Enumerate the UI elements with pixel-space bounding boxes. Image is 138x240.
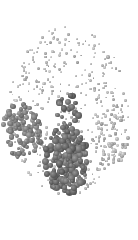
- sphere-dot: [95, 146, 98, 149]
- sphere-dot: [90, 143, 92, 145]
- sphere-dot: [55, 143, 61, 149]
- sphere-dot: [101, 105, 103, 107]
- sphere-dot: [95, 150, 97, 152]
- sphere-dot: [56, 160, 63, 167]
- sphere-dot: [49, 148, 54, 153]
- sphere-dot: [67, 33, 70, 36]
- sphere-dot: [116, 129, 118, 131]
- sphere-dot: [85, 82, 87, 84]
- sphere-dot: [23, 78, 26, 81]
- sphere-dot: [85, 94, 87, 96]
- sphere-dot: [42, 82, 45, 85]
- sphere-dot: [127, 105, 129, 107]
- sphere-dot: [17, 138, 21, 142]
- sphere-dot: [65, 118, 67, 120]
- sphere-dot: [68, 84, 70, 86]
- sphere-dot: [105, 97, 107, 99]
- sphere-dot: [81, 74, 83, 76]
- sphere-dot: [118, 70, 120, 72]
- sphere-dot: [60, 71, 63, 74]
- sphere-dot: [32, 122, 36, 126]
- sphere-dot: [22, 83, 24, 85]
- sphere-dot: [79, 191, 82, 194]
- sphere-dot: [80, 130, 83, 133]
- sphere-dot: [99, 162, 102, 165]
- sphere-dot: [80, 92, 82, 94]
- sphere-dot: [36, 85, 39, 88]
- sphere-dot: [48, 30, 50, 32]
- sphere-dot: [58, 41, 61, 44]
- sphere-dot: [49, 41, 52, 44]
- sphere-dot: [88, 44, 90, 46]
- sphere-dot: [22, 120, 26, 124]
- sphere-dot: [92, 140, 95, 143]
- sphere-dot: [27, 106, 32, 111]
- sphere-dot: [80, 108, 82, 110]
- sphere-dot: [33, 61, 35, 63]
- sphere-dot: [81, 165, 86, 170]
- sphere-dot: [112, 95, 114, 97]
- sphere-dot: [123, 119, 125, 121]
- sphere-dot: [87, 168, 90, 171]
- sphere-dot: [48, 70, 51, 73]
- sphere-dot: [66, 148, 72, 154]
- sphere-dot: [68, 112, 70, 114]
- sphere-dot: [44, 52, 47, 55]
- sphere-dot: [121, 111, 123, 113]
- sphere-dot: [63, 65, 65, 67]
- sphere-dot: [44, 137, 47, 140]
- sphere-dot: [102, 75, 104, 77]
- sphere-dot: [119, 116, 121, 118]
- sphere-dot: [41, 185, 43, 187]
- sphere-dot: [41, 36, 43, 38]
- sphere-dot: [92, 173, 94, 175]
- sphere-dot: [77, 179, 84, 186]
- sphere-dot: [32, 100, 34, 102]
- sphere-dot: [121, 104, 124, 107]
- sphere-dot: [102, 51, 104, 53]
- sphere-dot: [60, 97, 64, 101]
- sphere-dot: [94, 52, 96, 54]
- sphere-dot: [76, 38, 78, 40]
- sphere-dot: [104, 114, 107, 117]
- sphere-dot: [122, 115, 125, 118]
- sphere-dot: [95, 136, 97, 138]
- sphere-dot: [89, 79, 92, 82]
- sphere-dot: [34, 148, 38, 152]
- sphere-dot: [28, 82, 30, 84]
- sphere-dot: [46, 44, 48, 46]
- sphere-dot: [24, 139, 28, 143]
- sphere-dot: [9, 141, 13, 145]
- sphere-dot: [94, 182, 96, 184]
- sphere-dot: [112, 124, 115, 127]
- sphere-dot: [83, 138, 86, 141]
- sphere-dot: [84, 69, 86, 71]
- sphere-dot: [69, 163, 73, 167]
- sphere-dot: [89, 160, 92, 163]
- sphere-dot: [38, 93, 40, 95]
- sphere-dot: [17, 85, 20, 88]
- sphere-dot: [68, 122, 72, 126]
- sphere-dot: [48, 59, 50, 61]
- sphere-dot: [51, 92, 53, 94]
- sphere-dot: [76, 51, 79, 54]
- sphere-dot: [121, 152, 125, 156]
- sphere-dot: [49, 81, 51, 83]
- sphere-dot: [26, 132, 32, 138]
- sphere-dot: [98, 94, 100, 96]
- sphere-dot: [28, 63, 31, 66]
- sphere-dot: [58, 54, 61, 57]
- sphere-dot: [105, 63, 108, 66]
- sphere-dot: [98, 139, 100, 141]
- sphere-dot: [28, 151, 31, 154]
- sphere-dot: [71, 185, 77, 191]
- sphere-dot: [97, 96, 100, 99]
- sphere-dot: [104, 66, 106, 68]
- sphere-dot: [17, 111, 22, 116]
- sphere-dot: [115, 105, 118, 108]
- sphere-dot: [106, 160, 108, 162]
- sphere-dot: [89, 88, 92, 91]
- sphere-dot: [57, 123, 60, 126]
- sphere-dot: [73, 55, 76, 58]
- sphere-dot: [95, 122, 98, 125]
